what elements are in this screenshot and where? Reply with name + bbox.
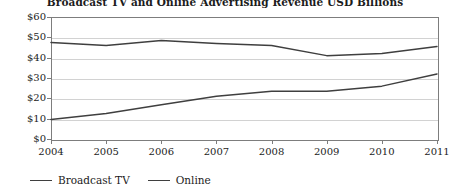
x-tick-mark [272,140,273,144]
series-line-broadcast-tv [51,40,437,55]
legend-line-icon [148,180,170,181]
legend-entry-broadcast-tv: Broadcast TV [30,174,130,186]
x-tick-label: 2009 [314,146,339,158]
chart-legend: Broadcast TVOnline [30,172,229,188]
series-line-online [51,74,437,120]
x-tick-mark [51,140,52,144]
x-tick-mark [161,140,162,144]
x-tick-label: 2010 [369,146,394,158]
legend-line-icon [30,180,52,181]
x-tick-mark [437,140,438,144]
x-tick-label: 2008 [259,146,284,158]
series-layer [0,0,450,196]
x-tick-mark [382,140,383,144]
x-tick-mark [327,140,328,144]
x-tick-label: 2006 [149,146,174,158]
x-tick-label: 2011 [424,146,449,158]
legend-label: Broadcast TV [58,174,130,186]
x-tick-mark [216,140,217,144]
x-tick-label: 2004 [38,146,63,158]
chart-screenshot: Broadcast TV and Online Advertising Reve… [0,0,450,196]
legend-label: Online [176,174,211,186]
x-tick-label: 2005 [93,146,118,158]
legend-entry-online: Online [148,174,211,186]
x-tick-label: 2007 [204,146,229,158]
x-tick-mark [106,140,107,144]
